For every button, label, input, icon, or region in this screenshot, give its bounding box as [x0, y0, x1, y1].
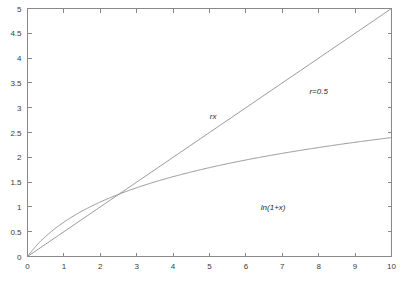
x-tick-label: 3	[134, 262, 139, 271]
x-tick-label: 8	[316, 262, 321, 271]
chart-plot-svg: 01234567891000.511.522.533.544.55rxr=0.5…	[0, 0, 404, 283]
y-tick-label: 4	[17, 54, 22, 63]
x-tick-label: 1	[62, 262, 67, 271]
y-axis: 00.511.522.533.544.55	[10, 5, 391, 262]
series-line-rx	[28, 9, 392, 257]
series-group	[28, 9, 392, 257]
y-tick-label: 3.5	[10, 79, 22, 88]
annotation-ln-label: ln(1+x)	[261, 203, 286, 212]
y-tick-label: 2	[17, 153, 22, 162]
annotation-rx: rx	[210, 112, 218, 121]
x-axis: 012345678910	[25, 9, 396, 271]
y-tick-label: 1	[17, 203, 22, 212]
x-tick-label: 4	[171, 262, 176, 271]
x-tick-label: 10	[387, 262, 396, 271]
x-tick-label: 0	[25, 262, 30, 271]
x-tick-label: 9	[353, 262, 358, 271]
y-tick-label: 2.5	[10, 129, 22, 138]
x-tick-label: 5	[207, 262, 212, 271]
x-tick-label: 7	[280, 262, 285, 271]
annotation-r-value: r=0.5	[309, 87, 328, 96]
x-tick-label: 2	[98, 262, 103, 271]
y-tick-label: 1.5	[10, 178, 22, 187]
annotations-group: rxr=0.5ln(1+x)	[210, 87, 329, 213]
y-tick-label: 4.5	[10, 29, 22, 38]
series-line-ln-1-x-	[28, 138, 392, 257]
y-tick-label: 0	[17, 253, 22, 262]
x-tick-label: 6	[244, 262, 249, 271]
chart-figure: 01234567891000.511.522.533.544.55rxr=0.5…	[0, 0, 404, 283]
y-tick-label: 0.5	[10, 228, 22, 237]
y-tick-label: 3	[17, 104, 22, 113]
y-tick-label: 5	[17, 5, 22, 14]
